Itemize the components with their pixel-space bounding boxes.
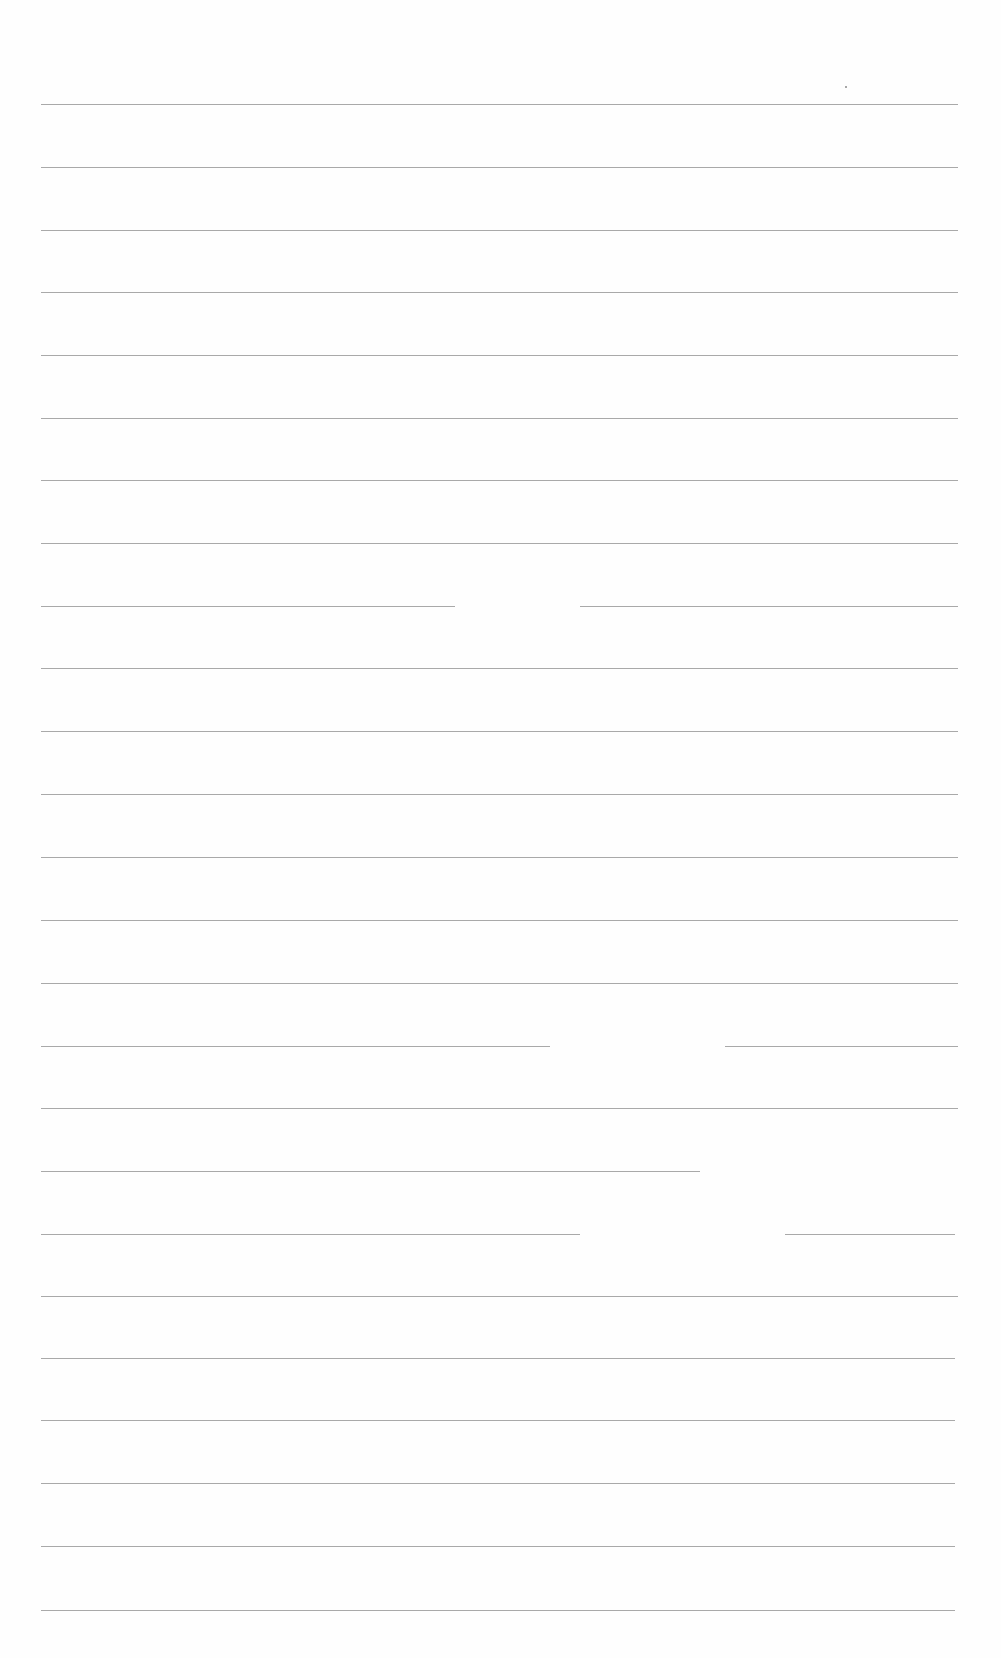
ruled-line — [41, 355, 958, 356]
ruled-line — [41, 418, 958, 419]
paper-speck — [845, 86, 847, 88]
ruled-line — [41, 104, 958, 105]
ruled-line — [41, 983, 958, 984]
ruled-line — [41, 1420, 955, 1421]
ruled-line — [41, 794, 958, 795]
ruled-line — [41, 1483, 955, 1484]
ruled-line — [41, 920, 958, 921]
ruled-line — [785, 1234, 955, 1235]
ruled-line — [41, 230, 958, 231]
ruled-line — [41, 1171, 700, 1172]
ruled-line — [41, 1296, 958, 1297]
ruled-line — [41, 1046, 550, 1047]
ruled-line — [41, 1358, 955, 1359]
ruled-line — [41, 668, 958, 669]
ruled-line — [725, 1046, 958, 1047]
ruled-line — [41, 1546, 955, 1547]
lined-paper-page — [0, 0, 1001, 1658]
ruled-line — [41, 167, 958, 168]
ruled-line — [41, 1108, 958, 1109]
ruled-line — [41, 292, 958, 293]
ruled-line — [41, 1234, 580, 1235]
ruled-line — [41, 606, 455, 607]
ruled-line — [41, 543, 958, 544]
ruled-line — [41, 1610, 955, 1611]
ruled-line — [580, 606, 958, 607]
ruled-line — [41, 731, 958, 732]
ruled-line — [41, 480, 958, 481]
ruled-line — [41, 857, 958, 858]
